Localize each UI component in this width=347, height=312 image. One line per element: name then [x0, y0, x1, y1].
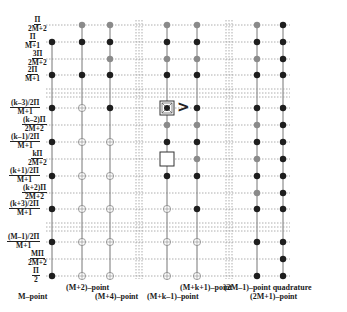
row-label: (k+3)/2ΠM+1: [9, 200, 40, 217]
dark-point-icon: [107, 39, 113, 45]
dark-point-icon: [280, 173, 286, 179]
open-point-icon: [106, 172, 113, 179]
column-label: (M+k–1)–point: [147, 292, 199, 301]
gray-point-icon: [254, 156, 260, 162]
dark-point-icon: [254, 273, 260, 279]
open-point-icon: [78, 138, 85, 145]
open-point-icon: [78, 238, 85, 245]
open-point-icon: [106, 238, 113, 245]
dark-point-icon: [280, 206, 286, 212]
row-label: Π2: [32, 267, 40, 284]
column-label: (2M+1)–point: [250, 292, 297, 301]
row-label: (M–1)/2ΠM+1: [7, 233, 40, 250]
dark-point-icon: [280, 139, 286, 145]
dark-point-icon: [49, 239, 55, 245]
row-label-denominator: M+1: [25, 75, 40, 83]
open-point-icon: [193, 238, 200, 245]
column-label: (M+4)–point: [95, 292, 138, 301]
dark-point-icon: [254, 72, 260, 78]
open-point-icon: [163, 205, 170, 212]
row-label-denominator: 2: [34, 276, 38, 284]
open-point-icon: [78, 104, 85, 111]
open-point-icon: [78, 272, 85, 279]
open-point-icon: [163, 238, 170, 245]
gray-point-icon: [194, 22, 200, 28]
open-point-icon: [106, 138, 113, 145]
dark-point-icon: [194, 39, 200, 45]
dark-point-icon: [280, 190, 286, 196]
open-point-icon: [106, 205, 113, 212]
gray-point-icon: [164, 56, 170, 62]
dark-point-icon: [107, 72, 113, 78]
dark-point-icon: [280, 256, 286, 262]
dark-point-icon: [194, 139, 200, 145]
dark-point-icon: [49, 139, 55, 145]
gray-point-icon: [254, 56, 260, 62]
dark-point-icon: [194, 105, 200, 111]
open-point-icon: [193, 272, 200, 279]
dark-point-icon: [194, 72, 200, 78]
dark-point-icon: [280, 56, 286, 62]
dark-point-icon: [164, 39, 170, 45]
dark-point-icon: [280, 105, 286, 111]
row-label: kΠ2M+2: [28, 150, 47, 167]
column-label: M–point: [18, 292, 47, 301]
dark-point-icon: [49, 39, 55, 45]
row-label: (k+1)/2ΠM+1: [9, 167, 40, 184]
dark-point-icon: [164, 139, 170, 145]
gray-point-icon: [164, 122, 170, 128]
gray-point-icon: [254, 22, 260, 28]
dark-point-icon: [49, 206, 55, 212]
row-label-denominator: M+1: [16, 242, 31, 250]
dark-point-icon: [254, 105, 260, 111]
dark-point-icon: [280, 239, 286, 245]
gray-point-icon: [107, 56, 113, 62]
dark-point-icon: [254, 239, 260, 245]
column-label: (M+2)–point: [66, 283, 109, 292]
dark-point-icon: [254, 39, 260, 45]
dark-point-icon: [49, 105, 55, 111]
dark-point-icon: [254, 139, 260, 145]
column-label: (2M–1)–point quadrature: [224, 283, 312, 292]
row-label: ΠM+1: [25, 33, 40, 50]
row-label: Π2M+2: [28, 16, 47, 33]
open-point-icon: [78, 172, 85, 179]
row-label: (k–2)Π2M+2: [22, 116, 47, 133]
row-label: (k–3)/2ΠM+1: [10, 99, 40, 116]
row-label: MΠ2M+2: [28, 250, 47, 267]
quadrature-grid-diagram: [0, 0, 347, 312]
dark-point-icon: [280, 122, 286, 128]
row-label-denominator: M+1: [17, 209, 32, 217]
gray-point-icon: [194, 156, 200, 162]
gray-point-icon: [79, 22, 85, 28]
gray-point-icon: [254, 122, 260, 128]
dark-point-icon: [280, 156, 286, 162]
dark-point-icon: [49, 273, 55, 279]
dark-point-icon: [280, 72, 286, 78]
boxed-marked-point-icon: [160, 101, 174, 115]
row-label-denominator: M+1: [18, 142, 33, 150]
open-point-icon: [106, 272, 113, 279]
dark-point-icon: [79, 72, 85, 78]
dark-point-icon: [194, 206, 200, 212]
row-label: 2ΠM+1: [25, 66, 40, 83]
open-point-icon: [78, 205, 85, 212]
dark-point-icon: [254, 173, 260, 179]
dark-point-icon: [280, 273, 286, 279]
open-point-icon: [163, 272, 170, 279]
dark-point-icon: [280, 39, 286, 45]
dark-point-icon: [164, 72, 170, 78]
gray-point-icon: [194, 56, 200, 62]
row-label: (k–1)/2ΠM+1: [10, 133, 40, 150]
arrow-pointer-icon: >: [177, 98, 190, 116]
dark-point-icon: [49, 173, 55, 179]
dark-point-icon: [164, 173, 170, 179]
dark-point-icon: [79, 39, 85, 45]
dark-point-icon: [107, 105, 113, 111]
dark-point-icon: [280, 22, 286, 28]
gray-point-icon: [194, 122, 200, 128]
dark-point-icon: [254, 206, 260, 212]
gray-point-icon: [254, 190, 260, 196]
empty-box-icon: [160, 152, 174, 166]
gray-point-icon: [164, 22, 170, 28]
